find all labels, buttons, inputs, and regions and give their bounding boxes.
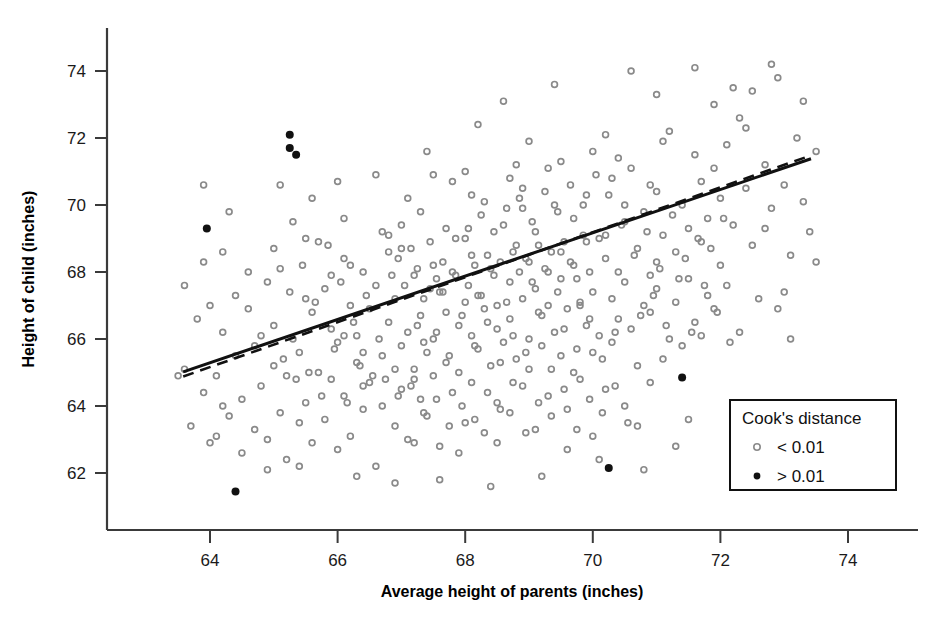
data-point-influential bbox=[678, 374, 686, 382]
y-tick-label: 70 bbox=[67, 196, 86, 215]
chart-root: 62646668707274 646668707274 Average heig… bbox=[0, 0, 951, 632]
scatter-plot: 62646668707274 646668707274 Average heig… bbox=[0, 0, 951, 632]
x-tick-label: 66 bbox=[328, 551, 347, 570]
legend-title: Cook's distance bbox=[742, 409, 861, 428]
x-axis-title: Average height of parents (inches) bbox=[381, 583, 644, 600]
x-tick-label: 74 bbox=[839, 551, 858, 570]
legend: Cook's distance < 0.01 > 0.01 bbox=[730, 400, 896, 490]
data-point-influential bbox=[286, 144, 294, 152]
data-point-influential bbox=[286, 131, 294, 139]
y-tick-label: 72 bbox=[67, 129, 86, 148]
y-axis-title: Height of child (inches) bbox=[20, 191, 37, 368]
plot-background bbox=[0, 0, 951, 632]
data-point-influential bbox=[203, 224, 211, 232]
data-point-influential bbox=[605, 464, 613, 472]
y-tick-label: 66 bbox=[67, 330, 86, 349]
x-tick-label: 70 bbox=[583, 551, 602, 570]
y-tick-label: 74 bbox=[67, 62, 86, 81]
legend-label-low: < 0.01 bbox=[777, 438, 825, 457]
y-tick-label: 62 bbox=[67, 464, 86, 483]
x-tick-label: 64 bbox=[201, 551, 220, 570]
legend-marker-high bbox=[754, 473, 761, 480]
x-tick-label: 72 bbox=[711, 551, 730, 570]
y-tick-label: 68 bbox=[67, 263, 86, 282]
data-point-influential bbox=[292, 151, 300, 159]
legend-label-high: > 0.01 bbox=[777, 467, 825, 486]
y-tick-label: 64 bbox=[67, 397, 86, 416]
data-point-influential bbox=[232, 487, 240, 495]
x-tick-label: 68 bbox=[456, 551, 475, 570]
